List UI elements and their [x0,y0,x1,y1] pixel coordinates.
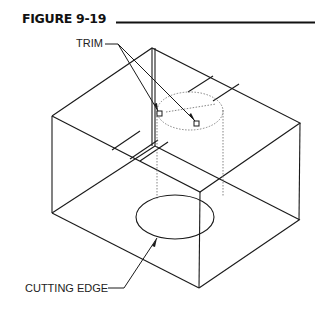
dotted-cylinder [157,92,223,200]
isometric-box-drawing [0,0,327,310]
box-outline [52,48,300,288]
cutting-edge-arrowhead [152,238,157,247]
trim-pick-box-1 [157,111,162,116]
trim-pick-box-2 [194,121,199,126]
cutting-edge-ellipse [136,195,214,239]
trim-arrowhead-2 [189,113,195,121]
